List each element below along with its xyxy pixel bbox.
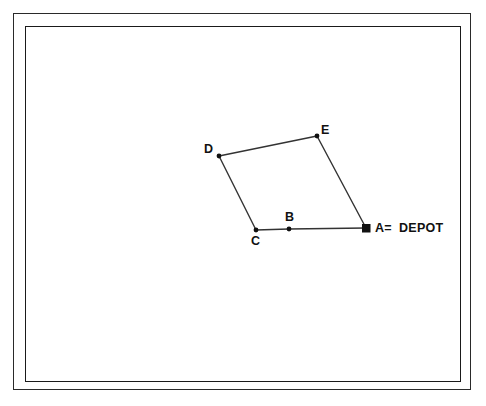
node-label-e: E [321, 124, 330, 137]
node-label-b: B [285, 211, 294, 224]
tour-edge-a-b [289, 228, 366, 229]
depot-marker-a [362, 224, 371, 233]
tour-plot [0, 0, 486, 406]
node-marker-e [315, 134, 320, 139]
node-label-c: C [251, 235, 260, 248]
tour-edge-b-c [256, 229, 289, 230]
depot-legend: A= DEPOT [375, 222, 443, 235]
tour-edge-d-e [219, 136, 317, 156]
node-label-d: D [204, 143, 213, 156]
node-marker-c [254, 228, 259, 233]
tour-edge-e-a [317, 136, 366, 228]
tour-edge-c-d [219, 156, 256, 230]
depot-legend-key: A= [375, 221, 392, 235]
depot-legend-value: DEPOT [399, 221, 444, 235]
node-marker-d [217, 154, 222, 159]
node-marker-b [287, 227, 292, 232]
diagram-canvas: A B C D E A= DEPOT [0, 0, 486, 406]
